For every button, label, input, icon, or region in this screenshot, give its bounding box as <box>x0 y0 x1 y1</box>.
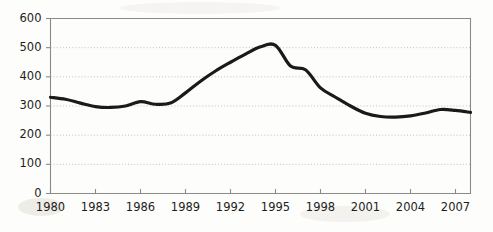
x-axis-tick-label: 2007 <box>431 202 481 214</box>
x-axis-tick-label: 1992 <box>206 202 256 214</box>
x-axis-tick-label: 1983 <box>71 202 121 214</box>
gridlines <box>51 19 471 165</box>
x-axis-tick-label: 1980 <box>26 202 76 214</box>
x-axis-tick-label: 1986 <box>116 202 166 214</box>
x-axis-ticks <box>51 189 456 194</box>
y-axis-tick-label: 600 <box>0 13 42 25</box>
y-axis-tick-label: 0 <box>0 188 42 200</box>
y-axis-tick-label: 500 <box>0 42 42 54</box>
y-axis-tick-label: 400 <box>0 71 42 83</box>
x-axis-tick-label: 1998 <box>296 202 346 214</box>
y-axis-tick-label: 200 <box>0 129 42 141</box>
line-chart: 0100200300400500600 19801983198619891992… <box>0 0 493 232</box>
plot-area <box>0 0 493 232</box>
x-axis-tick-label: 1989 <box>161 202 211 214</box>
y-axis-ticks <box>46 19 51 194</box>
x-axis-tick-label: 2004 <box>386 202 436 214</box>
x-axis-tick-label: 1995 <box>251 202 301 214</box>
x-axis-tick-label: 2001 <box>341 202 391 214</box>
y-axis-tick-label: 100 <box>0 158 42 170</box>
y-axis-tick-label: 300 <box>0 100 42 112</box>
